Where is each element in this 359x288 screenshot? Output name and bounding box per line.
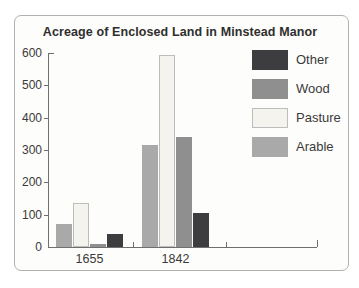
y-tick-label: 200 [10,176,42,188]
legend-swatch-other [252,50,288,70]
bar-wood-1655 [90,244,106,247]
y-tick-label: 400 [10,112,42,124]
y-tick-mark [44,150,48,151]
legend-swatch-arable [252,137,288,157]
legend-label-other: Other [296,50,329,70]
bar-arable-1842 [142,145,158,247]
y-tick-label: 600 [10,47,42,59]
y-tick-mark [44,215,48,216]
x-tick-mark [133,242,134,247]
y-axis-line [48,53,49,247]
y-axis-top-tick [48,53,54,54]
x-axis-end-tick [317,240,318,247]
y-tick-mark [44,182,48,183]
legend-swatch-wood [252,79,288,99]
bar-other-1842 [193,213,209,247]
chart-title: Acreage of Enclosed Land in Minstead Man… [40,25,320,39]
bar-pasture-1655 [73,203,89,247]
y-tick-label: 300 [10,144,42,156]
bar-wood-1842 [176,137,192,247]
bar-pasture-1842 [159,55,175,247]
y-tick-mark [44,85,48,86]
chart-page: Acreage of Enclosed Land in Minstead Man… [0,0,359,288]
legend-label-wood: Wood [296,79,330,99]
y-tick-label: 500 [10,79,42,91]
y-tick-mark [44,118,48,119]
bar-other-1655 [107,234,123,247]
legend-label-arable: Arable [296,137,334,157]
category-label: 1655 [70,252,110,266]
x-tick-mark [226,242,227,247]
bar-arable-1655 [56,224,72,247]
y-tick-label: 0 [10,241,42,253]
legend-label-pasture: Pasture [296,108,341,128]
legend-swatch-pasture [252,108,288,128]
y-tick-label: 100 [10,209,42,221]
x-axis-line [48,247,317,248]
category-label: 1842 [156,252,196,266]
